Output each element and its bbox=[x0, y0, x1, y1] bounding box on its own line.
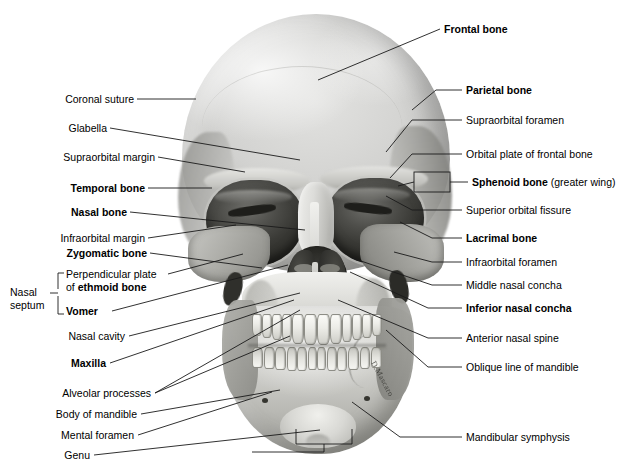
label-middle-nasal-concha: Middle nasal concha bbox=[466, 279, 562, 291]
label-superior-orbital-fissure: Superior orbital fissure bbox=[466, 204, 571, 216]
figure-canvas: D.Mascaro bbox=[0, 0, 632, 469]
label-anterior-nasal-spine: Anterior nasal spine bbox=[466, 332, 559, 344]
label-coronal-suture: Coronal suture bbox=[0, 93, 134, 105]
label-nasal-septum: Nasal septum bbox=[10, 286, 56, 312]
label-infraorbital-foramen: Infraorbital foramen bbox=[466, 256, 557, 268]
orbital-plate-left bbox=[214, 190, 292, 204]
upper-tooth-row bbox=[252, 314, 382, 346]
label-perpendicular-plate: Perpendicular plate of ethmoid bone bbox=[66, 268, 170, 293]
mandibular-symphysis-shape bbox=[306, 434, 330, 450]
label-zygomatic-bone: Zygomatic bone bbox=[0, 247, 147, 259]
nasal-septum-bracket-top bbox=[58, 273, 64, 289]
label-nasal-cavity: Nasal cavity bbox=[0, 330, 125, 342]
occlusal-line bbox=[248, 344, 386, 349]
mental-foramen-left bbox=[262, 398, 268, 403]
label-temporal-bone: Temporal bone bbox=[0, 182, 145, 194]
label-nasal-bone: Nasal bone bbox=[0, 206, 127, 218]
label-sphenoid-bone: Sphenoid bone (greater wing) bbox=[472, 176, 616, 188]
label-body-of-mandible: Body of mandible bbox=[0, 408, 137, 420]
sphenoid-bone-suffix: (greater wing) bbox=[548, 176, 616, 188]
label-oblique-line: Oblique line of mandible bbox=[466, 361, 579, 373]
label-alveolar-processes: Alveolar processes bbox=[0, 387, 151, 399]
nasal-septum-line2: septum bbox=[10, 299, 44, 311]
label-supraorbital-margin: Supraorbital margin bbox=[0, 151, 155, 163]
label-infraorbital-margin: Infraorbital margin bbox=[0, 232, 145, 244]
perpendicular-plate-prefix: of bbox=[66, 281, 78, 293]
label-glabella: Glabella bbox=[0, 122, 107, 134]
perpendicular-plate-bone: ethmoid bone bbox=[78, 281, 147, 293]
nasal-septum-bracket-bottom bbox=[58, 296, 64, 314]
label-mental-foramen: Mental foramen bbox=[0, 429, 134, 441]
label-parietal-bone: Parietal bone bbox=[466, 84, 532, 96]
label-lacrimal-bone: Lacrimal bone bbox=[466, 232, 537, 244]
orbital-plate-right bbox=[332, 188, 410, 202]
label-mandibular-symphysis: Mandibular symphysis bbox=[466, 431, 570, 443]
label-genu: Genu bbox=[0, 449, 90, 461]
label-orbital-plate: Orbital plate of frontal bone bbox=[466, 148, 593, 160]
label-inferior-nasal-concha: Inferior nasal concha bbox=[466, 302, 572, 314]
perpendicular-plate-line1: Perpendicular plate bbox=[66, 268, 156, 280]
skull-illustration: D.Mascaro bbox=[168, 14, 464, 454]
sphenoid-bone-name: Sphenoid bone bbox=[472, 176, 548, 188]
label-vomer: Vomer bbox=[66, 305, 112, 317]
label-maxilla: Maxilla bbox=[0, 357, 106, 369]
nasal-septum-line1: Nasal bbox=[10, 286, 37, 298]
label-frontal-bone: Frontal bone bbox=[444, 23, 508, 35]
label-supraorbital-foramen: Supraorbital foramen bbox=[466, 114, 564, 126]
